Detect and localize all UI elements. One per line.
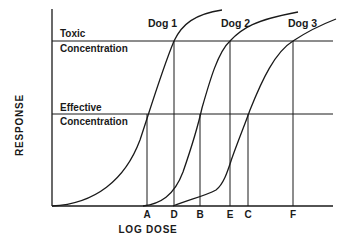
dose-marker-f: F [290,209,296,220]
dose-marker-b: B [196,209,203,220]
dose-response-diagram: Dog 1 Dog 2 Dog 3 Toxic Concentration Ef… [0,0,353,243]
x-axis-label: LOG DOSE [118,224,177,235]
toxic-label-line1: Toxic [60,28,86,39]
effective-label-line2: Concentration [60,116,128,127]
dog-2-label: Dog 2 [221,17,250,29]
dog-1-label: Dog 1 [148,17,177,29]
dose-marker-c: C [244,209,251,220]
toxic-label-line2: Concentration [60,43,128,54]
dog-3-curve [173,19,336,206]
dose-marker-a: A [143,209,150,220]
dose-marker-e: E [227,209,234,220]
effective-label-line1: Effective [60,102,102,113]
y-axis-label: RESPONSE [14,94,25,156]
dose-marker-d: D [170,209,177,220]
dog-3-label: Dog 3 [288,17,317,29]
